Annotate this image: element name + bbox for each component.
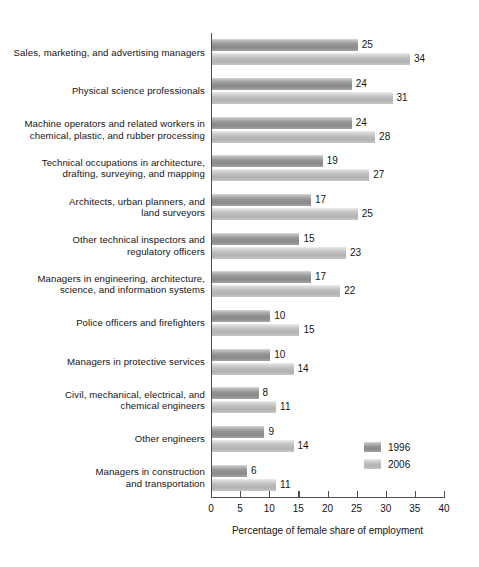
bar [212,465,247,477]
legend-label: 1996 [388,442,410,453]
x-tick-label: 15 [293,503,304,514]
x-tick-mark [298,491,299,498]
bar-value-label: 25 [362,208,373,220]
bar [212,349,270,361]
bar [212,426,264,438]
bar-value-label: 15 [303,324,314,336]
bar-value-label: 27 [373,169,384,181]
bar-value-label: 17 [315,194,326,206]
x-tick-label: 30 [380,503,391,514]
bar [212,363,294,375]
category-label: Police officers and firefighters [5,317,205,329]
legend-item: 1996 [364,440,448,454]
x-tick-label: 5 [237,503,243,514]
category-label: Technical occupations in architecture, d… [5,157,205,180]
category-label: Physical science professionals [5,85,205,97]
bar [212,194,311,206]
bar-value-label: 22 [344,285,355,297]
x-tick-mark [269,491,270,498]
bar-value-label: 24 [356,78,367,90]
bar [212,440,294,452]
bar [212,208,358,220]
bar-value-label: 14 [298,440,309,452]
bar-value-label: 34 [414,53,425,65]
category-label: Other technical inspectors and regulator… [5,234,205,257]
category-label: Sales, marketing, and advertising manage… [5,47,205,59]
bar-value-label: 15 [303,233,314,245]
legend-item: 2006 [364,457,448,471]
bar [212,324,299,336]
bar-value-label: 31 [397,92,408,104]
category-label: Machine operators and related workers in… [5,118,205,141]
x-tick-mark [386,491,387,498]
category-label: Other engineers [5,433,205,445]
bar-value-label: 24 [356,117,367,129]
bar [212,479,276,491]
bar-value-label: 11 [280,479,290,491]
plot-area: 0510152025303540 25342431242819271725152… [211,33,444,497]
bar [212,92,393,104]
bar-value-label: 10 [274,349,285,361]
category-label: Civil, mechanical, electrical, and chemi… [5,389,205,412]
category-label: Architects, urban planners, and land sur… [5,196,205,219]
bar-value-label: 9 [268,426,274,438]
legend-swatch [364,459,381,469]
bar [212,233,299,245]
x-tick-mark [444,491,445,498]
x-tick-mark [211,491,212,498]
x-tick-mark [240,491,241,498]
bar [212,285,340,297]
bar-value-label: 8 [263,387,269,399]
bar [212,310,270,322]
bar-value-label: 11 [280,401,290,413]
x-tick-mark [357,491,358,498]
x-tick-label: 20 [322,503,333,514]
bar [212,131,375,143]
bar [212,247,346,259]
legend-swatch [364,442,381,452]
bar [212,169,369,181]
category-label: Managers in engineering, architecture, s… [5,273,205,296]
bar [212,155,323,167]
bar-value-label: 23 [350,247,361,259]
bar [212,387,259,399]
bar-value-label: 10 [274,310,285,322]
bar [212,78,352,90]
bar-value-label: 25 [362,39,373,51]
bar [212,53,410,65]
bar-value-label: 17 [315,271,326,283]
bar [212,117,352,129]
x-tick-label: 10 [264,503,275,514]
x-tick-mark [415,491,416,498]
x-tick-label: 25 [351,503,362,514]
x-tick-mark [328,491,329,498]
bar-value-label: 14 [298,363,309,375]
bar-value-label: 28 [379,131,390,143]
bar-value-label: 19 [327,155,338,167]
legend-label: 2006 [388,459,410,470]
legend: 19962006 [364,440,448,474]
x-axis-title: Percentage of female share of employment [211,525,444,536]
bar [212,271,311,283]
x-tick-label: 35 [409,503,420,514]
category-label: Managers in construction and transportat… [5,466,205,489]
bar [212,39,358,51]
category-label: Managers in protective services [5,356,205,368]
bar-chart: Sales, marketing, and advertising manage… [0,0,479,567]
x-tick-label: 0 [208,503,214,514]
bar [212,401,276,413]
x-tick-label: 40 [438,503,449,514]
bar-value-label: 6 [251,465,257,477]
